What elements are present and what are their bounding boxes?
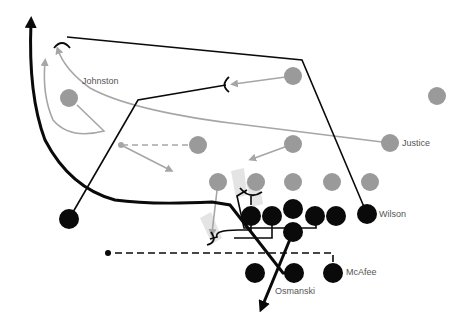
offense-player-quarterback bbox=[283, 222, 303, 242]
wilson-block-cap bbox=[54, 43, 70, 48]
mcafee-route-dot bbox=[105, 250, 111, 256]
defense-player-safety bbox=[428, 87, 446, 105]
offense-player-center bbox=[283, 199, 303, 219]
label-justice: Justice bbox=[402, 139, 430, 148]
offense-player-guard-left bbox=[262, 206, 282, 226]
defense-player-dl-2 bbox=[247, 173, 265, 191]
offense-player-tackle-left bbox=[241, 206, 261, 226]
label-mcafee: McAfee bbox=[346, 268, 377, 277]
defense-player-dl-3 bbox=[284, 173, 302, 191]
offense-player-osmanski bbox=[284, 263, 304, 283]
play-diagram bbox=[0, 0, 455, 324]
left-end-block-cap bbox=[225, 77, 230, 92]
offense-players bbox=[59, 199, 377, 283]
defense-player-lb-center bbox=[284, 67, 302, 85]
offense-player-wilson bbox=[357, 204, 377, 224]
defense-player-justice bbox=[381, 134, 399, 152]
label-johnston: Johnston bbox=[82, 77, 119, 86]
label-wilson: Wilson bbox=[379, 210, 406, 219]
defense-player-lb-left bbox=[189, 136, 207, 154]
justice-long-route bbox=[58, 50, 390, 143]
lb-left-drop-route bbox=[121, 145, 170, 170]
offense-player-tackle-right bbox=[326, 206, 346, 226]
lb-left-dot bbox=[118, 142, 124, 148]
offense-player-mcafee bbox=[323, 263, 343, 283]
defense-player-dl-5 bbox=[361, 173, 379, 191]
label-osmanski: Osmanski bbox=[275, 287, 315, 296]
defense-player-dl-4 bbox=[323, 173, 341, 191]
offense-player-guard-right bbox=[305, 206, 325, 226]
defense-player-lb-mid bbox=[284, 135, 302, 153]
halfback-sweep-route bbox=[31, 22, 288, 273]
offense-player-left-half bbox=[245, 263, 265, 283]
defense-player-johnston bbox=[60, 89, 78, 107]
defense-player-dl-1 bbox=[209, 173, 227, 191]
offense-player-left-end bbox=[59, 209, 79, 229]
